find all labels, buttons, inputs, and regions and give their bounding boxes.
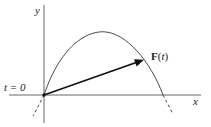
x-axis-label: x <box>192 95 198 107</box>
curve-dashed-start <box>33 95 44 116</box>
vector-label-paren-close: ) <box>164 50 168 63</box>
arrow-head-icon <box>134 59 144 66</box>
diagram-canvas: y x t = 0 F(t) <box>0 0 211 127</box>
y-axis-label: y <box>34 4 40 16</box>
vector-function-diagram: y x t = 0 F(t) <box>0 0 211 127</box>
t-zero-label: t = 0 <box>4 81 26 93</box>
origin-point <box>42 93 45 96</box>
curve-dashed-end <box>163 95 173 114</box>
vector-label: F(t) <box>151 50 168 63</box>
vector-arrow-shaft <box>44 62 139 96</box>
curve-path <box>44 32 163 95</box>
